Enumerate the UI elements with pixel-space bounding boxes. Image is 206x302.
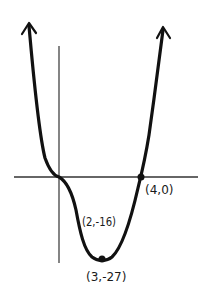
label-3-neg27: (3,-27) <box>86 270 126 284</box>
point-4-0 <box>138 174 145 181</box>
label-4-0: (4,0) <box>145 183 173 197</box>
point-3-neg27 <box>99 256 106 263</box>
label-2-neg16: (2,-16) <box>82 215 116 229</box>
polynomial-sketch: (4,0) (2,-16) (3,-27) <box>0 0 206 302</box>
